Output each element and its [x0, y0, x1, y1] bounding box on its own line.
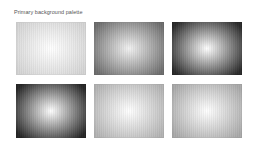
page-title: Primary background palette [14, 9, 83, 16]
swatch-tile[interactable] [94, 84, 164, 138]
swatch-tile[interactable] [94, 22, 164, 75]
texture-overlay [173, 23, 241, 74]
texture-overlay [95, 85, 163, 137]
texture-overlay [95, 23, 163, 74]
texture-overlay [173, 85, 241, 137]
palette-page: Primary background palette [0, 0, 266, 150]
swatch-tile[interactable] [16, 22, 86, 75]
texture-overlay [17, 85, 85, 137]
swatch-tile[interactable] [16, 84, 86, 138]
swatch-grid [16, 22, 244, 138]
texture-overlay [17, 23, 85, 74]
swatch-tile[interactable] [172, 22, 242, 75]
swatch-tile[interactable] [172, 84, 242, 138]
